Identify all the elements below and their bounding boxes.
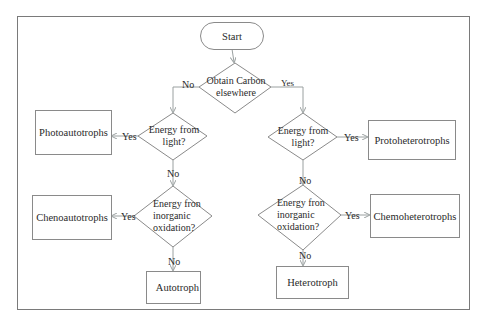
carbon-decision-text: Obtain Carbon elsewhere	[201, 75, 271, 99]
start-label: Start	[222, 31, 242, 42]
left-light-decision-text: Energy from light?	[144, 124, 204, 148]
right-inorganic-yes-label: Yes	[345, 210, 360, 221]
left-light-no-label: No	[167, 168, 179, 179]
left-light-line1: Energy from	[144, 124, 204, 136]
right-inorganic-decision-text: Energy fron inorganic oxidation?	[277, 197, 339, 233]
photoautotrophs-box: Photoautotrophs	[35, 110, 112, 155]
left-inorganic-no-label: No	[168, 256, 180, 267]
photoautotrophs-label: Photoautotrophs	[39, 127, 108, 138]
right-inorganic-line3: oxidation?	[277, 221, 339, 233]
protoheterotrophs-label: Protoheterotrophs	[374, 135, 449, 146]
heterotroph-label: Heterotroph	[287, 277, 338, 288]
start-terminal: Start	[200, 22, 264, 50]
carbon-decision-line2: elsewhere	[201, 87, 271, 99]
carbon-no-label: No	[182, 79, 194, 90]
right-inorganic-line1: Energy fron	[277, 197, 339, 209]
carbon-yes-label: Yes	[281, 78, 294, 89]
left-inorganic-decision-text: Energy fron inorganic oxidation?	[153, 198, 213, 234]
right-light-line1: Energy from	[273, 125, 333, 137]
left-inorganic-line1: Energy fron	[153, 198, 213, 210]
left-light-yes-label: Yes	[122, 131, 137, 142]
right-light-yes-label: Yes	[344, 132, 359, 143]
right-inorganic-no-label: No	[299, 250, 311, 261]
chemoheterotrophs-label: Chemoheterotrophs	[374, 211, 457, 222]
autotroph-label: Autotroph	[156, 282, 199, 293]
right-inorganic-line2: inorganic	[277, 209, 339, 221]
left-inorganic-yes-label: Yes	[121, 211, 136, 222]
left-inorganic-line2: inorganic	[153, 210, 213, 222]
chenoautotrophs-label: Chenoautotrophs	[36, 212, 108, 223]
right-light-line2: light?	[273, 137, 333, 149]
left-light-line2: light?	[144, 136, 204, 148]
right-light-no-label: No	[299, 175, 311, 186]
left-inorganic-line3: oxidation?	[153, 222, 213, 234]
autotroph-box: Autotroph	[146, 271, 201, 304]
protoheterotrophs-box: Protoheterotrophs	[368, 120, 456, 160]
right-light-decision-text: Energy from light?	[273, 125, 333, 149]
heterotroph-box: Heterotroph	[276, 266, 349, 299]
carbon-decision-line1: Obtain Carbon	[201, 75, 271, 87]
chenoautotrophs-box: Chenoautotrophs	[32, 195, 112, 240]
chemoheterotrophs-box: Chemoheterotrophs	[370, 194, 460, 238]
